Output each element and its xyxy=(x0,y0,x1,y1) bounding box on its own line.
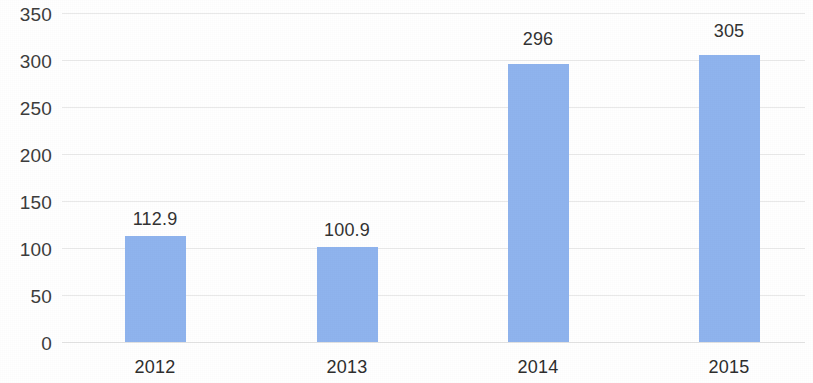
bar-value-2015: 305 xyxy=(674,22,784,40)
ytick-label-100: 100 xyxy=(0,240,52,259)
raster-noise-overlay xyxy=(0,0,813,383)
ytick-label-300: 300 xyxy=(0,52,52,71)
xtick-label-2012: 2012 xyxy=(100,358,210,376)
gridline-350 xyxy=(62,13,805,14)
xtick-label-2013: 2013 xyxy=(292,358,402,376)
bar-chart: 350 300 250 200 150 100 50 0 112.9 100.9… xyxy=(0,0,813,383)
gridline-150 xyxy=(62,201,805,202)
ytick-label-250: 250 xyxy=(0,99,52,118)
bar-value-2013: 100.9 xyxy=(292,221,402,239)
axis-baseline xyxy=(62,342,805,343)
bar-2012 xyxy=(125,236,186,342)
gridline-200 xyxy=(62,154,805,155)
bar-2015 xyxy=(699,55,760,342)
bar-2013 xyxy=(317,247,378,342)
xtick-label-2015: 2015 xyxy=(674,358,784,376)
ytick-label-0: 0 xyxy=(0,334,52,353)
gridline-300 xyxy=(62,60,805,61)
ytick-label-350: 350 xyxy=(0,5,52,24)
bar-2014 xyxy=(508,64,569,342)
xtick-label-2014: 2014 xyxy=(483,358,593,376)
ytick-label-150: 150 xyxy=(0,193,52,212)
bar-value-2012: 112.9 xyxy=(100,210,210,228)
ytick-label-200: 200 xyxy=(0,146,52,165)
bar-value-2014: 296 xyxy=(483,30,593,48)
gridline-250 xyxy=(62,107,805,108)
ytick-label-50: 50 xyxy=(0,287,52,306)
